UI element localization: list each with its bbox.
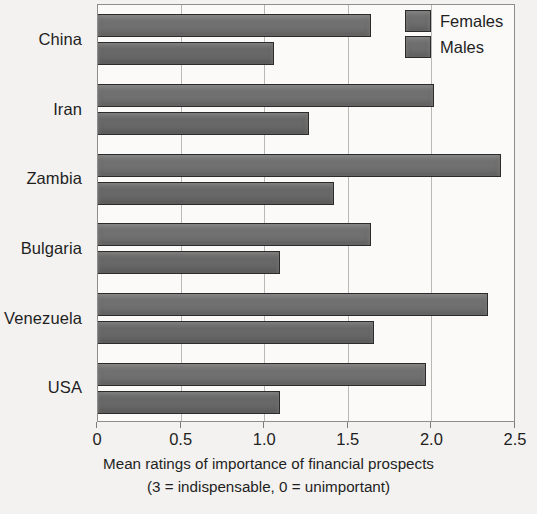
legend-swatch-males bbox=[405, 36, 431, 58]
category-label-zambia: Zambia bbox=[0, 169, 82, 188]
gridline bbox=[431, 5, 432, 421]
x-axis-title-line-1: Mean ratings of importance of financial … bbox=[0, 455, 537, 472]
bar-bulgaria-males bbox=[98, 251, 280, 274]
category-label-bulgaria: Bulgaria bbox=[0, 238, 82, 257]
legend-item-females: Females bbox=[405, 8, 503, 34]
x-tick-label: 0.5 bbox=[169, 430, 192, 449]
x-axis-title-line-2: (3 = indispensable, 0 = unimportant) bbox=[0, 478, 537, 495]
legend-swatch-females bbox=[405, 10, 431, 32]
plot-area bbox=[97, 4, 515, 422]
x-tick-label: 2.0 bbox=[420, 430, 443, 449]
bar-iran-females bbox=[98, 84, 434, 107]
legend-item-males: Males bbox=[405, 34, 503, 60]
bar-zambia-males bbox=[98, 182, 334, 205]
x-tick-label: 2.5 bbox=[504, 430, 527, 449]
gridline bbox=[348, 5, 349, 421]
x-tick-label: 0 bbox=[92, 430, 101, 449]
bar-zambia-females bbox=[98, 154, 501, 177]
bar-usa-males bbox=[98, 391, 280, 414]
x-tick bbox=[96, 422, 97, 428]
bar-china-females bbox=[98, 14, 371, 37]
x-tick bbox=[514, 422, 515, 428]
bar-china-males bbox=[98, 42, 274, 65]
category-label-china: China bbox=[0, 29, 82, 48]
x-tick bbox=[263, 422, 264, 428]
category-label-iran: Iran bbox=[0, 99, 82, 118]
x-tick bbox=[430, 422, 431, 428]
legend: Females Males bbox=[405, 8, 503, 60]
category-label-venezuela: Venezuela bbox=[0, 308, 82, 327]
bar-venezuela-females bbox=[98, 293, 488, 316]
gridline bbox=[264, 5, 265, 421]
gridline bbox=[181, 5, 182, 421]
bar-venezuela-males bbox=[98, 321, 374, 344]
bar-chart: ChinaIranZambiaBulgariaVenezuelaUSA 00.5… bbox=[0, 0, 537, 514]
category-axis-labels: ChinaIranZambiaBulgariaVenezuelaUSA bbox=[0, 4, 90, 422]
bar-bulgaria-females bbox=[98, 223, 371, 246]
x-tick bbox=[347, 422, 348, 428]
legend-label-females: Females bbox=[440, 12, 503, 31]
category-label-usa: USA bbox=[0, 378, 82, 397]
x-tick-label: 1.5 bbox=[336, 430, 359, 449]
x-tick-label: 1.0 bbox=[253, 430, 276, 449]
bar-iran-males bbox=[98, 112, 309, 135]
bar-usa-females bbox=[98, 363, 426, 386]
legend-label-males: Males bbox=[440, 38, 484, 57]
x-tick bbox=[180, 422, 181, 428]
